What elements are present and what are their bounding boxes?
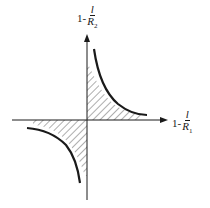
x-axis-label-fraction: l R1: [182, 109, 192, 137]
x-den-subscript: 1: [189, 127, 193, 135]
x-axis-label: 1- l R1: [172, 109, 192, 137]
x-axis-label-denominator: R1: [182, 121, 192, 137]
y-axis-label-prefix: 1-: [77, 12, 86, 24]
y-den-subscript: 2: [94, 22, 98, 30]
x-axis-arrow-icon: [160, 117, 168, 123]
x-axis-label-prefix: 1-: [172, 117, 181, 129]
y-axis-label-fraction: l R2: [87, 4, 97, 32]
y-axis-label: 1- l R2: [77, 4, 97, 32]
y-axis-arrow-icon: [84, 34, 90, 42]
stability-diagram: [0, 0, 210, 208]
y-axis-label-denominator: R2: [87, 16, 97, 32]
y-den-letter: R: [87, 15, 94, 27]
hatched-region-q3: [33, 120, 87, 176]
x-den-letter: R: [182, 120, 189, 132]
